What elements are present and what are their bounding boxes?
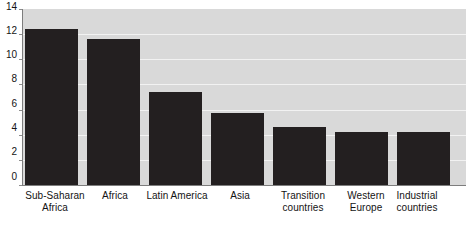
- x-axis-line: [22, 185, 466, 186]
- x-axis-label-line-1: Industrial: [364, 190, 470, 202]
- bar-latin-america: [149, 92, 202, 185]
- x-axis-label-line-2: countries: [364, 202, 470, 214]
- y-axis-tick-label-6: 6: [0, 99, 17, 109]
- bar-western-europe: [335, 132, 388, 185]
- bar-chart: 14 12 10 8 6 4 2 0 Sub-Saharan Africa Af…: [0, 0, 470, 233]
- bar-industrial-countries: [397, 132, 450, 185]
- bar-transition-countries: [273, 127, 326, 185]
- y-axis-tick-label-8: 8: [0, 74, 17, 84]
- bar-asia: [211, 113, 264, 185]
- y-axis-tick-label-12: 12: [0, 26, 17, 36]
- bar-africa: [87, 39, 140, 185]
- y-axis-tick-label-2: 2: [0, 147, 17, 157]
- y-axis-tick-label-10: 10: [0, 50, 17, 60]
- plot-area: [23, 9, 466, 185]
- x-axis-label-line-2: Africa: [0, 202, 110, 214]
- y-axis-tick-label-4: 4: [0, 123, 17, 133]
- y-axis-tick-label-0: 0: [0, 172, 17, 182]
- x-axis-label-industrial-countries: Industrial countries: [364, 190, 470, 213]
- gridline-12: [23, 34, 466, 35]
- y-axis-tick-label-14: 14: [0, 2, 17, 12]
- bar-sub-saharan-africa: [25, 29, 78, 185]
